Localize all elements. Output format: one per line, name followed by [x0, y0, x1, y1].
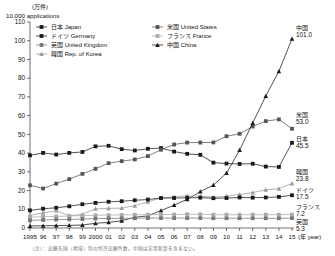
- end-label-value: 53.0: [296, 118, 309, 125]
- data-point-marker: [277, 216, 281, 220]
- data-point-marker: [212, 196, 216, 200]
- data-point-marker: [120, 159, 124, 163]
- data-point-marker: [225, 134, 229, 138]
- data-point-marker: [146, 216, 150, 220]
- x-tick-label: 96: [40, 233, 47, 240]
- data-point-marker: [120, 213, 124, 217]
- data-point-marker: [120, 216, 124, 220]
- x-tick-label: 11: [236, 233, 243, 240]
- end-label-value: 17.5: [296, 193, 309, 200]
- data-point-marker: [94, 144, 98, 148]
- data-point-marker: [238, 213, 242, 217]
- data-point-marker: [146, 213, 150, 217]
- data-point-marker: [264, 94, 269, 98]
- series-japan: [28, 141, 294, 169]
- data-point-marker: [290, 127, 294, 131]
- data-point-marker: [172, 143, 176, 147]
- data-point-marker: [120, 199, 124, 203]
- data-point-marker: [41, 218, 45, 222]
- data-point-marker: [40, 43, 44, 47]
- data-point-marker: [277, 117, 281, 121]
- data-point-marker: [172, 213, 176, 217]
- data-point-marker: [107, 213, 111, 217]
- data-point-marker: [185, 196, 189, 200]
- y-tick-label: 80: [18, 74, 26, 81]
- data-point-marker: [40, 34, 44, 38]
- data-point-marker: [277, 165, 281, 169]
- data-point-marker: [212, 141, 216, 145]
- data-point-marker: [290, 141, 294, 145]
- chart-svg: (万件)10,000 applications01020304050607080…: [0, 0, 335, 256]
- data-point-marker: [264, 216, 268, 220]
- legend-label-japan: 日本 Japan: [51, 23, 81, 31]
- end-label-value: 7.2: [296, 210, 305, 217]
- data-point-marker: [67, 177, 71, 181]
- data-point-marker: [107, 200, 111, 204]
- figure-note: （注）：出願先国（地域）別の特許出願件数。中国は実用新案を含まない。: [30, 245, 198, 252]
- data-point-marker: [81, 217, 85, 221]
- data-point-marker: [120, 147, 124, 151]
- data-point-marker: [290, 213, 294, 217]
- data-point-marker: [67, 151, 71, 155]
- data-point-marker: [54, 206, 58, 210]
- data-point-marker: [225, 213, 229, 217]
- data-point-marker: [277, 195, 281, 199]
- x-tick-label: 07: [184, 233, 191, 240]
- data-point-marker: [133, 158, 137, 162]
- y-tick-label: 90: [18, 56, 26, 63]
- data-point-marker: [146, 154, 150, 158]
- data-point-marker: [264, 165, 268, 169]
- data-point-marker: [264, 119, 268, 123]
- data-point-marker: [238, 216, 242, 220]
- data-point-marker: [41, 187, 45, 191]
- data-point-marker: [251, 216, 255, 220]
- y-tick-label: 40: [18, 149, 26, 156]
- end-label-value: 101.0: [296, 31, 312, 38]
- data-point-marker: [156, 25, 160, 29]
- legend-label-us: 米国 United States: [167, 23, 217, 31]
- data-point-marker: [290, 216, 294, 220]
- y-tick-label: 30: [18, 168, 26, 175]
- x-tick-label: 10: [223, 233, 230, 240]
- data-point-marker: [81, 172, 85, 176]
- data-point-marker: [81, 150, 85, 154]
- data-point-marker: [54, 218, 58, 222]
- legend-label-france: フランス France: [167, 33, 212, 39]
- end-label-us: 米国53.0: [296, 111, 309, 125]
- x-tick-label: 06: [171, 233, 178, 240]
- y-tick-label: 20: [18, 187, 26, 194]
- x-tick-label: 97: [53, 233, 60, 240]
- y-tick-label: 10: [18, 205, 26, 212]
- data-point-marker: [146, 147, 150, 151]
- data-point-marker: [198, 189, 203, 193]
- data-point-marker: [40, 25, 44, 29]
- data-point-marker: [290, 181, 295, 185]
- data-point-marker: [159, 216, 163, 220]
- x-tick-label: 2000: [89, 233, 103, 240]
- data-point-marker: [172, 196, 176, 200]
- y-tick-label: 100: [14, 37, 25, 44]
- x-tick-label: 99: [79, 233, 86, 240]
- patent-applications-chart: (万件)10,000 applications01020304050607080…: [0, 0, 335, 256]
- data-point-marker: [28, 153, 32, 157]
- data-point-marker: [238, 196, 242, 200]
- x-tick-label: 14: [275, 233, 282, 240]
- y-tick-label: 50: [18, 131, 26, 138]
- end-label-china: 中国101.0: [296, 24, 312, 38]
- x-tick-label: 13: [262, 233, 269, 240]
- x-tick-label: 15: [289, 233, 296, 240]
- data-point-marker: [159, 213, 163, 217]
- data-point-marker: [81, 214, 85, 218]
- data-point-marker: [225, 216, 229, 220]
- data-point-marker: [185, 152, 189, 156]
- x-tick-label: 03: [131, 233, 138, 240]
- data-point-marker: [212, 161, 216, 165]
- data-point-marker: [237, 148, 242, 152]
- data-point-marker: [107, 144, 111, 148]
- end-label-japan: 日本45.5: [296, 135, 309, 149]
- data-point-marker: [224, 171, 229, 175]
- data-point-marker: [133, 149, 137, 153]
- data-point-marker: [107, 217, 111, 221]
- y-tick-label: 110: [15, 18, 26, 25]
- data-point-marker: [277, 69, 282, 73]
